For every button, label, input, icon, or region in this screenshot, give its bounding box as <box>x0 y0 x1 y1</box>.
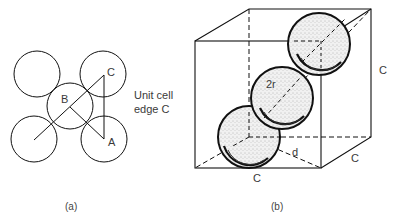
caption-b: (b) <box>271 201 283 212</box>
sphere-middle <box>251 67 313 129</box>
edge-label-depth: C <box>351 152 359 164</box>
unit-cell-label-line2: edge C <box>134 102 173 116</box>
point-label-b: B <box>61 93 68 105</box>
unit-cell-edge-label: Unit cell edge C <box>134 88 173 116</box>
corner-atom-bottom-left <box>11 116 57 162</box>
unit-cell-label-line1: Unit cell <box>134 88 173 102</box>
sphere-top <box>288 13 350 75</box>
body-diagonal-line <box>34 75 104 140</box>
edge-label-right: C <box>379 64 387 76</box>
diameter-label-2r: 2r <box>266 78 276 90</box>
point-label-c: C <box>107 66 115 78</box>
point-label-a: A <box>108 136 116 148</box>
spheres <box>218 13 350 168</box>
edge-label-bottom: C <box>253 172 261 184</box>
caption-a: (a) <box>65 201 77 212</box>
line-b-to-a <box>70 107 104 139</box>
unit-cell-diagram: B C A (a) <box>0 0 395 222</box>
face-diagonal-label-d: d <box>292 146 298 158</box>
